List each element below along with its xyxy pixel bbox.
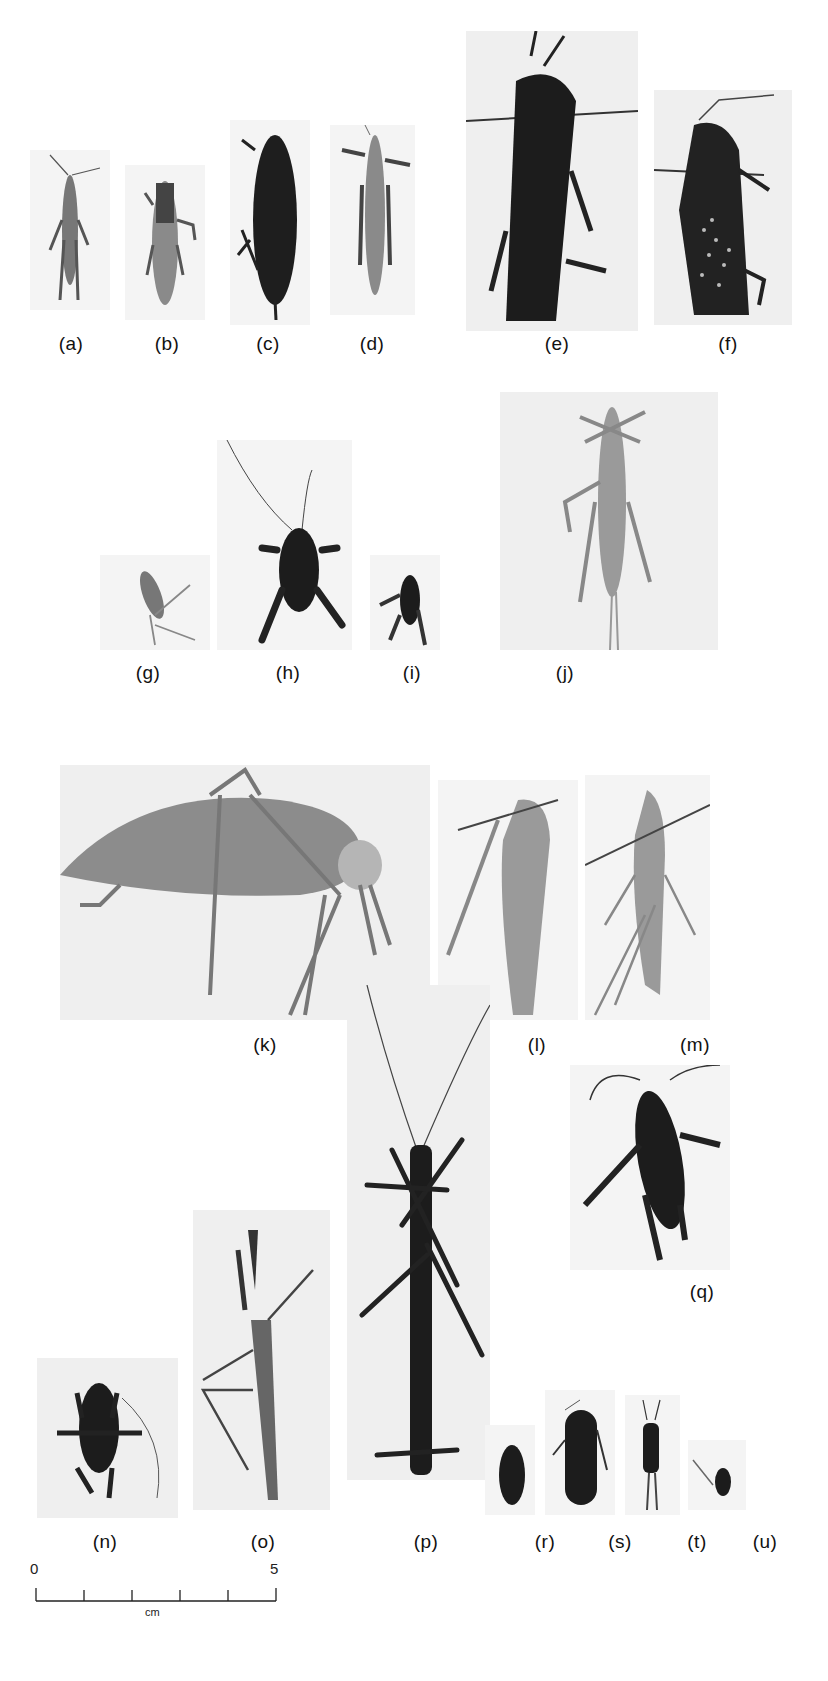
specimen-label-q: (q) [690, 1281, 715, 1303]
specimen-photo-b [125, 165, 205, 320]
specimen-photo-q [570, 1065, 730, 1270]
specimen-photo-j [500, 392, 718, 650]
specimen-photo-d [330, 125, 415, 315]
katydid-icon [585, 775, 710, 1020]
specimen-label-i: (i) [403, 662, 421, 684]
specimen-label-g: (g) [136, 662, 161, 684]
scale-bar: 0 5 cm [30, 1568, 280, 1628]
specimen-label-d: (d) [360, 333, 385, 355]
specimen-label-u: (u) [753, 1531, 778, 1553]
grasshopper-icon [230, 120, 310, 325]
earwig-icon [625, 1395, 680, 1515]
insect-icon [100, 555, 210, 650]
specimen-photo-l [438, 780, 578, 1020]
specimen-label-f: (f) [718, 333, 737, 355]
grasshopper-icon [466, 31, 638, 331]
specimen-label-o: (o) [251, 1531, 276, 1553]
grasshopper-icon [125, 165, 205, 320]
scale-unit-label: cm [145, 1606, 160, 1618]
katydid-icon [60, 765, 430, 1020]
cricket-icon [570, 1065, 730, 1270]
specimen-photo-h [217, 440, 352, 650]
specimen-label-e: (e) [545, 333, 570, 355]
katydid-icon [438, 780, 578, 1020]
specimen-photo-e [466, 31, 638, 331]
specimen-label-l: (l) [528, 1034, 546, 1056]
specimen-label-m: (m) [680, 1034, 710, 1056]
insect-icon [688, 1440, 746, 1510]
specimen-photo-u [688, 1440, 746, 1510]
scale-end-label: 5 [270, 1560, 278, 1577]
cockroach-icon [485, 1425, 535, 1515]
specimen-photo-g [100, 555, 210, 650]
specimen-label-r: (r) [535, 1531, 555, 1553]
cricket-icon [217, 440, 352, 650]
specimen-photo-i [370, 555, 440, 650]
specimen-photo-o [193, 1210, 330, 1510]
specimen-photo-a [30, 150, 110, 310]
cockroach-icon [545, 1390, 615, 1515]
specimen-label-k: (k) [253, 1034, 277, 1056]
mantis-icon [193, 1210, 330, 1510]
specimen-photo-k [60, 765, 430, 1020]
specimen-photo-r [485, 1425, 535, 1515]
specimen-photo-s [545, 1390, 615, 1515]
specimen-photo-c [230, 120, 310, 325]
stick-insect-icon [347, 985, 490, 1480]
specimen-photo-n [37, 1358, 178, 1518]
specimen-label-t: (t) [687, 1531, 706, 1553]
specimen-label-b: (b) [155, 333, 180, 355]
specimen-label-j: (j) [556, 662, 574, 684]
cricket-icon [370, 555, 440, 650]
specimen-photo-t [625, 1395, 680, 1515]
specimen-photo-m [585, 775, 710, 1020]
cricket-icon [37, 1358, 178, 1518]
grasshopper-icon [30, 150, 110, 310]
specimen-label-s: (s) [608, 1531, 632, 1553]
specimen-label-n: (n) [93, 1531, 118, 1553]
specimen-label-p: (p) [414, 1531, 439, 1553]
grasshopper-icon [500, 392, 718, 650]
specimen-photo-f [654, 90, 792, 325]
specimen-label-a: (a) [59, 333, 84, 355]
scale-start-label: 0 [30, 1560, 38, 1577]
specimen-label-c: (c) [256, 333, 280, 355]
grasshopper-icon [654, 90, 792, 325]
grasshopper-icon [330, 125, 415, 315]
specimen-photo-p [347, 985, 490, 1480]
specimen-label-h: (h) [276, 662, 301, 684]
